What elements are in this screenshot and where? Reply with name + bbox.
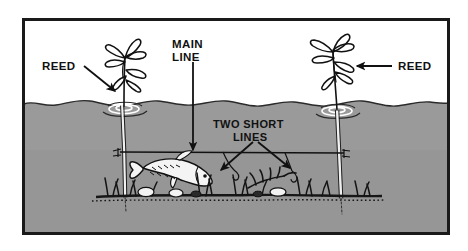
main-line-span [120,152,344,153]
fishing-rig-diagram: REED MAIN LINE TWO SHORT LINES REED [0,0,468,251]
illustration-frame-group: REED MAIN LINE TWO SHORT LINES REED [24,20,449,234]
label-reed-left: REED [42,60,76,72]
label-reed-right: REED [398,60,432,72]
label-main-line-line1: MAIN [172,38,203,50]
label-two-short-lines-line1: TWO SHORT [213,118,284,130]
fish-eye [203,174,207,178]
figure-canvas: REED MAIN LINE TWO SHORT LINES REED [0,0,468,251]
label-two-short-lines-line2: LINES [233,131,267,143]
label-main-line-line2: LINE [172,51,200,63]
